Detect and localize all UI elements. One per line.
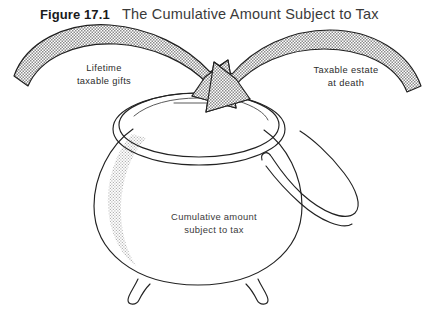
cauldron-shading: [108, 134, 146, 266]
figure-title: The Cumulative Amount Subject to Tax: [122, 6, 379, 22]
right-arrow-label-line1: Taxable estate: [314, 65, 379, 75]
cauldron-leg-right: [246, 279, 268, 304]
right-arrow-label-line2: at death: [328, 78, 364, 88]
left-arrow-label-line2: taxable gifts: [77, 76, 131, 86]
rim-inner-arc-right: [238, 101, 268, 120]
cauldron-leg-left: [128, 279, 150, 304]
pot-label-line2: subject to tax: [184, 224, 243, 235]
pot-label-line1: Cumulative amount: [171, 211, 257, 222]
cauldron: [94, 93, 358, 304]
figure-number: Figure 17.1: [40, 7, 110, 22]
figure-illustration: Figure 17.1 The Cumulative Amount Subjec…: [0, 0, 433, 315]
rim-inner-arc-left: [134, 98, 198, 116]
figure-root: Figure 17.1 The Cumulative Amount Subjec…: [0, 0, 433, 315]
left-arrow-label-line1: Lifetime: [86, 63, 121, 73]
